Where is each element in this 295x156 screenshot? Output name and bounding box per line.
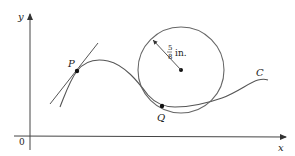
radius-numerator: 5 [168, 44, 172, 52]
point-p [75, 69, 79, 73]
point-q-label: Q [157, 112, 165, 123]
tangent-line [50, 43, 98, 104]
origin-label: 0 [19, 137, 25, 147]
radius-unit: in. [175, 48, 187, 58]
curve-c [60, 60, 268, 107]
y-axis-label: y [17, 11, 24, 22]
curve-label: C [256, 67, 264, 78]
point-p-label: P [67, 58, 75, 69]
x-axis [14, 136, 286, 137]
radius-denominator: 8 [168, 53, 172, 61]
point-q [160, 104, 164, 108]
diagram-canvas: y x 0 5 8 in. P Q C [0, 0, 295, 156]
radius-label: 5 8 in. [167, 44, 187, 61]
x-axis-label: x [278, 142, 284, 153]
